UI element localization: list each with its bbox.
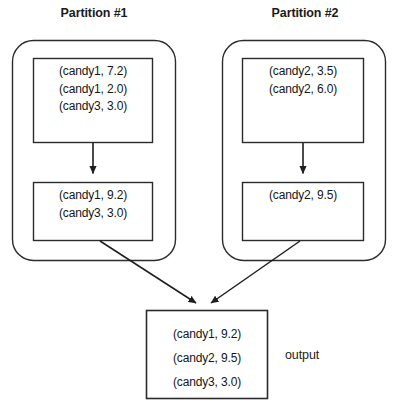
partition-1-to-output-arrow xyxy=(100,241,196,303)
partition-2-to-output-arrow xyxy=(211,241,300,303)
partition-2-input-box xyxy=(243,59,364,143)
diagram-canvas: Partition #1 Partition #2 (candy1, 7.2) … xyxy=(0,0,397,415)
output-box xyxy=(147,311,268,399)
diagram-vector-layer xyxy=(0,0,397,415)
partition-1-input-box xyxy=(34,59,153,143)
partition-1-result-box xyxy=(34,183,153,241)
partition-2-result-box xyxy=(243,183,364,241)
